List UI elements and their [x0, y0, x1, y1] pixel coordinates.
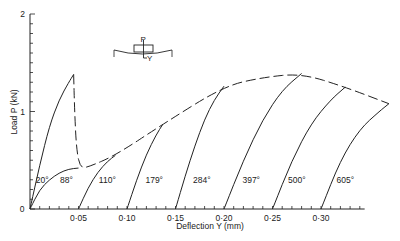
beam-inset-diagram: P Y	[114, 35, 172, 63]
load-curve	[224, 73, 302, 209]
curve-label: 500°	[288, 175, 306, 185]
curve-label: 20°	[36, 175, 49, 185]
load-curve	[273, 87, 346, 209]
curve-label: 179°	[145, 175, 163, 185]
chart-svg: 00·050·100·150·200·250·3012 20°88°110°17…	[0, 0, 400, 241]
x-tick-label: 0·05	[70, 213, 87, 223]
envelope-dashed-curve	[74, 74, 389, 167]
curves	[30, 73, 389, 209]
x-tick-label: 0·30	[312, 213, 329, 223]
curve-label: 397°	[242, 175, 260, 185]
chart: 00·050·100·150·200·250·3012 20°88°110°17…	[0, 0, 400, 241]
load-curve	[321, 104, 389, 209]
load-curve	[30, 74, 74, 209]
x-axis-label: Deflection Y (mm)	[176, 221, 244, 231]
x-tick-label: 0	[20, 204, 25, 214]
axes: 00·050·100·150·200·250·3012	[20, 9, 365, 223]
curve-label: 605°	[337, 175, 355, 185]
curve-label: 284°	[193, 175, 211, 185]
load-curve	[176, 86, 225, 209]
curve-labels: 20°88°110°179°284°397°500°605°	[36, 175, 354, 185]
svg-text:Y: Y	[147, 54, 153, 63]
x-tick-label: 0·25	[264, 213, 281, 223]
curve-label: 110°	[99, 175, 116, 185]
x-tick-label: 0·10	[118, 213, 135, 223]
y-tick-label: 2	[20, 9, 25, 19]
y-axis-label: Load P (kN)	[9, 89, 19, 134]
y-tick-label: 1	[20, 107, 25, 117]
load-curve	[127, 124, 163, 209]
curve-label: 88°	[60, 175, 73, 185]
svg-text:P: P	[141, 35, 146, 44]
